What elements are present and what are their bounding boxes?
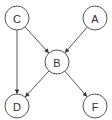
arrow-line <box>25 27 48 53</box>
edge-b-to-f <box>65 71 87 96</box>
edge-b-to-d <box>25 71 49 97</box>
arrow-line <box>25 71 49 97</box>
arrow-line <box>65 71 87 96</box>
nodes-layer: CABDF <box>5 6 107 118</box>
node-c: C <box>5 6 29 30</box>
node-label: C <box>13 13 21 25</box>
edge-c-to-b <box>25 27 48 53</box>
node-b: B <box>45 50 69 74</box>
node-label: D <box>13 101 21 113</box>
directed-graph: CABDF <box>0 0 112 120</box>
node-label: F <box>92 101 99 113</box>
node-label: B <box>53 57 60 69</box>
node-label: A <box>91 13 99 25</box>
node-f: F <box>83 94 107 118</box>
node-d: D <box>5 94 29 118</box>
arrow-line <box>65 27 87 52</box>
node-a: A <box>83 6 107 30</box>
edge-a-to-b <box>65 27 87 52</box>
